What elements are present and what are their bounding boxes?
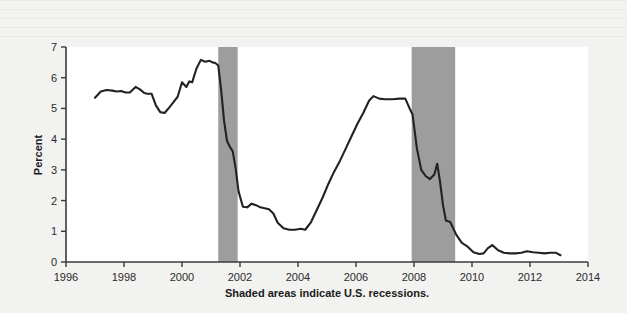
x-tick-label: 2002 bbox=[228, 271, 252, 283]
x-tick-label: 2006 bbox=[344, 271, 368, 283]
x-tick-label: 2008 bbox=[402, 271, 426, 283]
y-axis-title: Percent bbox=[32, 134, 44, 175]
y-tick-label: 5 bbox=[51, 102, 57, 114]
x-tick-label: 2004 bbox=[286, 271, 310, 283]
x-tick-label: 2012 bbox=[518, 271, 542, 283]
x-axis-ticks: 1996199820002002200420062008201020122014 bbox=[54, 262, 600, 283]
x-tick-label: 1996 bbox=[54, 271, 78, 283]
x-tick-label: 2000 bbox=[170, 271, 194, 283]
y-tick-label: 0 bbox=[51, 256, 57, 268]
chart-figure: 01234567 1996199820002002200420062008201… bbox=[0, 0, 627, 313]
y-tick-label: 7 bbox=[51, 41, 57, 53]
chart-caption: Shaded areas indicate U.S. recessions. bbox=[225, 287, 429, 299]
x-tick-label: 1998 bbox=[112, 271, 136, 283]
y-tick-label: 2 bbox=[51, 195, 57, 207]
y-tick-label: 1 bbox=[51, 225, 57, 237]
y-tick-label: 3 bbox=[51, 164, 57, 176]
recession-band bbox=[218, 47, 237, 262]
y-axis-ticks: 01234567 bbox=[51, 41, 66, 268]
y-tick-label: 4 bbox=[51, 133, 57, 145]
plot-area-background bbox=[66, 47, 588, 262]
y-tick-label: 6 bbox=[51, 72, 57, 84]
x-tick-label: 2014 bbox=[576, 271, 600, 283]
percent-line-chart: 01234567 1996199820002002200420062008201… bbox=[0, 0, 627, 313]
x-tick-label: 2010 bbox=[460, 271, 484, 283]
